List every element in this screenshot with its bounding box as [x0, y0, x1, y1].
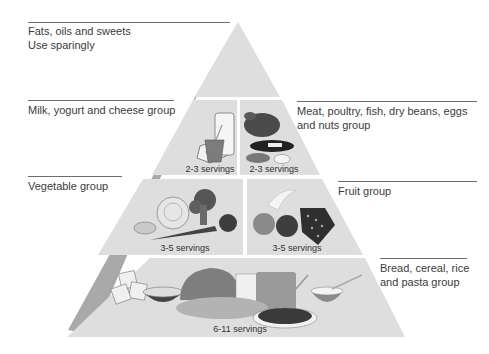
- label-fruit-line1: Fruit group: [338, 184, 391, 198]
- potato-icon: [134, 222, 156, 234]
- label-meat-line2: and nuts group: [297, 118, 467, 132]
- label-rule-fruit: [338, 181, 477, 182]
- servings-meat: 2-3 servings: [244, 164, 304, 174]
- servings-vegetable: 3-5 servings: [150, 243, 220, 253]
- servings-milk: 2-3 servings: [183, 164, 237, 174]
- label-fats: Fats, oils and sweets Use sparingly: [28, 24, 131, 52]
- label-rule-fats: [28, 22, 230, 23]
- servings-fruit: 3-5 servings: [262, 243, 332, 253]
- fish-icon: [250, 140, 294, 152]
- label-rule-milk: [28, 100, 174, 101]
- tomato-icon: [219, 214, 237, 232]
- label-milk-line1: Milk, yogurt and cheese group: [28, 103, 175, 117]
- label-rule-bread: [380, 258, 467, 259]
- label-rule-meat: [297, 101, 477, 102]
- orange-icon: [253, 213, 275, 235]
- label-milk: Milk, yogurt and cheese group: [28, 103, 175, 117]
- label-bread-line1: Bread, cereal, rice: [380, 261, 469, 275]
- label-fats-line1: Fats, oils and sweets: [28, 24, 131, 38]
- label-fruit: Fruit group: [338, 184, 391, 198]
- label-fats-line2: Use sparingly: [28, 38, 131, 52]
- label-bread: Bread, cereal, rice and pasta group: [380, 261, 469, 289]
- label-meat: Meat, poultry, fish, dry beans, eggs and…: [297, 104, 467, 132]
- apple-icon: [276, 215, 298, 237]
- label-vegetable-line1: Vegetable group: [28, 179, 108, 193]
- egg-icon: [274, 155, 290, 164]
- label-bread-line2: and pasta group: [380, 275, 469, 289]
- label-meat-line1: Meat, poultry, fish, dry beans, eggs: [297, 104, 467, 118]
- label-rule-vegetable: [28, 176, 122, 177]
- tier-fats: [195, 22, 280, 97]
- food-pyramid: [0, 0, 489, 354]
- cabbage-icon: [157, 197, 189, 229]
- label-vegetable: Vegetable group: [28, 179, 108, 193]
- beans-icon: [246, 153, 270, 163]
- servings-bread: 6-11 servings: [200, 324, 280, 334]
